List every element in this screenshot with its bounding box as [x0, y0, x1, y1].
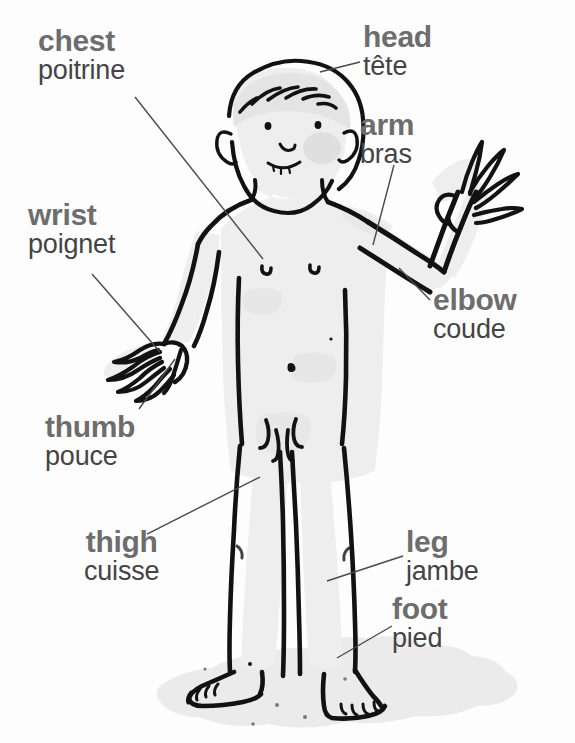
label-arm-en: arm [360, 110, 414, 140]
label-thumb-fr: pouce [45, 443, 135, 470]
label-leg: leg jambe [406, 527, 479, 585]
label-arm: arm bras [360, 110, 414, 168]
label-wrist-en: wrist [28, 200, 115, 230]
label-chest-fr: poitrine [38, 57, 125, 84]
label-arm-fr: bras [360, 141, 414, 168]
leader-line-leg [327, 556, 403, 581]
label-foot-fr: pied [392, 625, 447, 652]
label-wrist-fr: poignet [28, 231, 115, 258]
label-leg-fr: jambe [406, 558, 479, 585]
leader-line-wrist [92, 274, 160, 352]
label-elbow-fr: coude [433, 316, 517, 343]
leader-line-thigh [147, 477, 260, 534]
label-head: head tête [363, 22, 432, 80]
label-elbow-en: elbow [433, 285, 517, 315]
label-thigh: thigh cuisse [84, 527, 159, 585]
label-foot: foot pied [392, 594, 447, 652]
label-leg-en: leg [406, 527, 479, 557]
label-thigh-en: thigh [84, 527, 159, 557]
label-foot-en: foot [392, 594, 447, 624]
label-thumb: thumb pouce [45, 412, 135, 470]
label-chest-en: chest [38, 26, 125, 56]
label-wrist: wrist poignet [28, 200, 115, 258]
figure-illustration: .ink { fill:none; stroke:#121212; stroke… [0, 0, 575, 743]
label-head-en: head [363, 22, 432, 52]
label-head-fr: tête [363, 53, 432, 80]
body-parts-diagram: .ink { fill:none; stroke:#121212; stroke… [0, 0, 575, 743]
label-thumb-en: thumb [45, 412, 135, 442]
label-chest: chest poitrine [38, 26, 125, 84]
label-thigh-fr: cuisse [84, 558, 159, 585]
label-elbow: elbow coude [433, 285, 517, 343]
